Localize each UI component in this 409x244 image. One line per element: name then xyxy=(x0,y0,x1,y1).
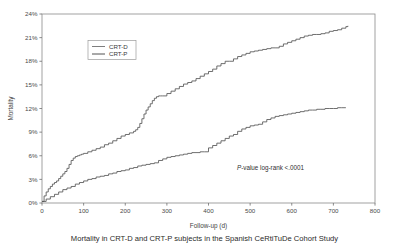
mortality-chart: 0%3%6%9%12%15%18%21%24% 0100200300400500… xyxy=(0,0,409,244)
x-tick-label: 400 xyxy=(203,207,214,214)
y-tick-label: 21% xyxy=(25,34,38,41)
legend-label-crt-d: CRT-D xyxy=(109,43,128,50)
y-axis-ticks: 0%3%6%9%12%15%18%21%24% xyxy=(25,10,42,206)
legend-label-crt-p: CRT-P xyxy=(109,50,127,57)
y-axis-title: Mortality xyxy=(7,96,15,121)
y-tick-label: 24% xyxy=(25,10,38,17)
x-tick-label: 0 xyxy=(40,207,44,214)
y-tick-label: 3% xyxy=(29,176,38,183)
y-tick-label: 9% xyxy=(29,128,38,135)
p-value-rest: -value log-rank <.0001 xyxy=(241,164,304,172)
figure-caption-clip: Mortality in CRT-D and CRT-P subjects in… xyxy=(0,234,409,244)
x-tick-label: 500 xyxy=(245,207,256,214)
x-tick-label: 700 xyxy=(328,207,339,214)
y-tick-label: 12% xyxy=(25,105,38,112)
y-tick-label: 0% xyxy=(29,199,38,206)
x-tick-label: 200 xyxy=(120,207,131,214)
kaplan-meier-figure: 0%3%6%9%12%15%18%21%24% 0100200300400500… xyxy=(0,0,409,244)
x-tick-label: 800 xyxy=(370,207,381,214)
x-axis-title: Follow-up (d) xyxy=(190,222,227,230)
p-value-annotation: P-value log-rank <.0001 xyxy=(237,164,305,172)
chart-legend[interactable]: CRT-D CRT-P xyxy=(88,41,136,60)
x-tick-label: 300 xyxy=(162,207,173,214)
y-tick-label: 15% xyxy=(25,81,38,88)
series-line-crt-p xyxy=(42,108,346,202)
y-tick-label: 6% xyxy=(29,152,38,159)
x-tick-label: 600 xyxy=(287,207,298,214)
y-tick-label: 18% xyxy=(25,57,38,64)
figure-caption: Mortality in CRT-D and CRT-P subjects in… xyxy=(0,234,409,243)
x-axis-ticks: 0100200300400500600700800 xyxy=(40,203,380,214)
x-tick-label: 100 xyxy=(78,207,89,214)
